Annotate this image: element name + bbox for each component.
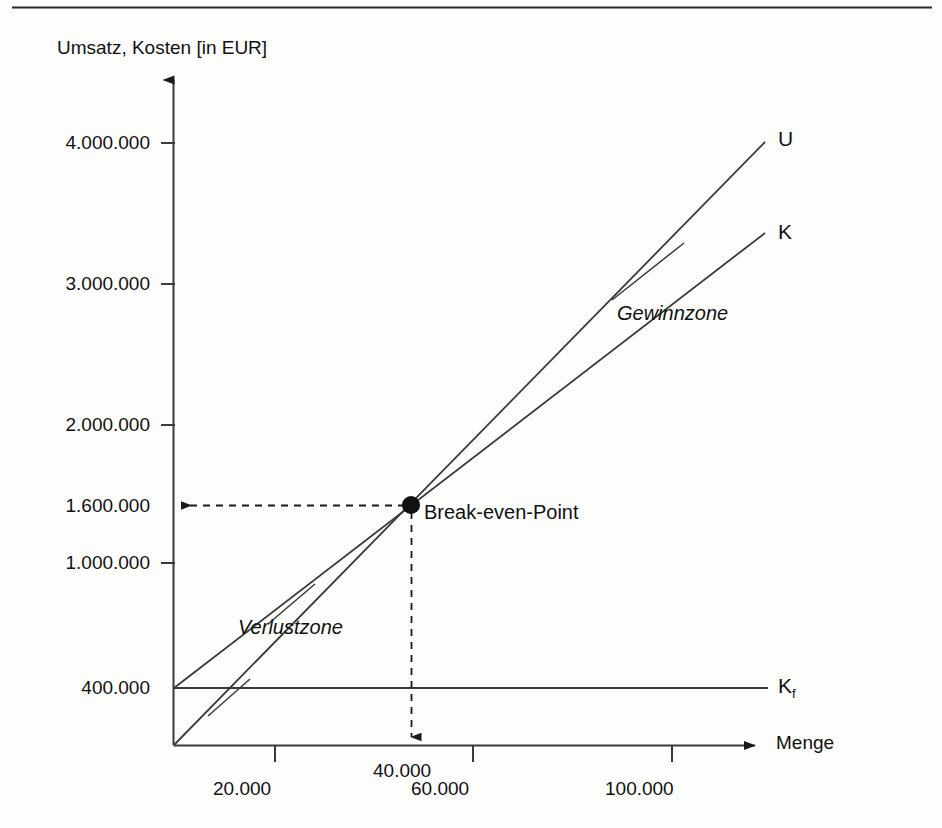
y-tick-label-3000000: 3.000.000	[0, 274, 150, 293]
break-even-point-marker	[402, 496, 420, 514]
profit-zone-leader-line	[612, 243, 684, 300]
fixed-cost-label-base: K	[778, 674, 792, 697]
loss-zone-label: Verlustzone	[238, 617, 343, 637]
y-tick-label-4000000: 4.000.000	[0, 133, 150, 152]
revenue-line	[174, 142, 765, 745]
y-tick-label-1600000: 1.600.000	[0, 496, 150, 515]
break-even-point-label: Break-even-Point	[424, 502, 579, 522]
fixed-cost-line-label: Kf	[778, 675, 796, 700]
x-axis-ticks	[275, 745, 672, 762]
loss-zone-leader-line-lower	[208, 679, 250, 716]
y-tick-label-400000: 400.000	[0, 678, 150, 697]
profit-zone-label: Gewinnzone	[617, 303, 728, 323]
x-tick-label-100000: 100.000	[605, 779, 674, 798]
break-even-chart-figure: Umsatz, Kosten [in EUR] 4.000.000 3.000.…	[0, 0, 942, 828]
revenue-line-label: U	[778, 128, 793, 149]
total-cost-line-label: K	[778, 221, 792, 242]
x-tick-label-60000: 60.000	[411, 779, 469, 798]
y-tick-label-1000000: 1.000.000	[0, 553, 150, 572]
x-axis-title: Menge	[776, 733, 834, 752]
y-tick-label-2000000: 2.000.000	[0, 415, 150, 434]
y-axis-title: Umsatz, Kosten [in EUR]	[57, 38, 267, 57]
fixed-cost-label-subscript: f	[792, 686, 796, 701]
x-tick-label-20000: 20.000	[213, 779, 271, 798]
